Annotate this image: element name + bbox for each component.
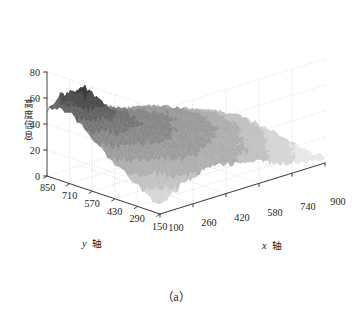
x-axis-label-latin: x [261, 240, 267, 251]
z-tick-marks [43, 72, 47, 176]
figure-caption: （a） [0, 288, 352, 304]
y-axis-label-latin: y [81, 238, 87, 249]
z-axis-label-char: 高 [24, 98, 33, 109]
surface-plot-3d: 0 20 40 60 80 850 710 570 430 290 150 10… [0, 0, 352, 319]
z-axis-label-char: 息 [24, 130, 33, 141]
y-tick-label: 710 [62, 190, 77, 201]
x-axis-label-cjk: 轴 [272, 240, 282, 251]
y-tick-label: 570 [85, 198, 100, 209]
y-axis-label-cjk: 轴 [92, 238, 102, 249]
x-tick-label: 740 [300, 201, 315, 212]
x-tick-label: 260 [201, 217, 216, 228]
figure-panel: 0 20 40 60 80 850 710 570 430 290 150 10… [0, 0, 352, 319]
y-tick-label: 290 [130, 213, 145, 224]
z-axis-label: 高 度 信 息 [24, 98, 33, 141]
y-axis-label: y 轴 [81, 238, 102, 249]
x-axis-label: x 轴 [261, 240, 282, 251]
z-axis-label-char: 度 [24, 109, 33, 120]
y-tick-label: 850 [40, 182, 55, 193]
z-tick-label: 0 [35, 171, 40, 182]
x-tick-label: 580 [267, 207, 282, 218]
x-tick-label: 420 [234, 212, 249, 223]
z-axis-label-char: 信 [24, 119, 33, 130]
x-tick-label: 900 [330, 196, 345, 207]
surface-mesh [47, 85, 325, 204]
x-tick-label: 100 [168, 222, 183, 233]
z-tick-label: 80 [30, 67, 40, 78]
y-tick-label: 150 [152, 221, 167, 232]
x-tick-labels: 100 260 420 580 740 900 [168, 196, 345, 234]
y-tick-label: 430 [107, 206, 122, 217]
z-tick-label: 20 [30, 145, 40, 156]
